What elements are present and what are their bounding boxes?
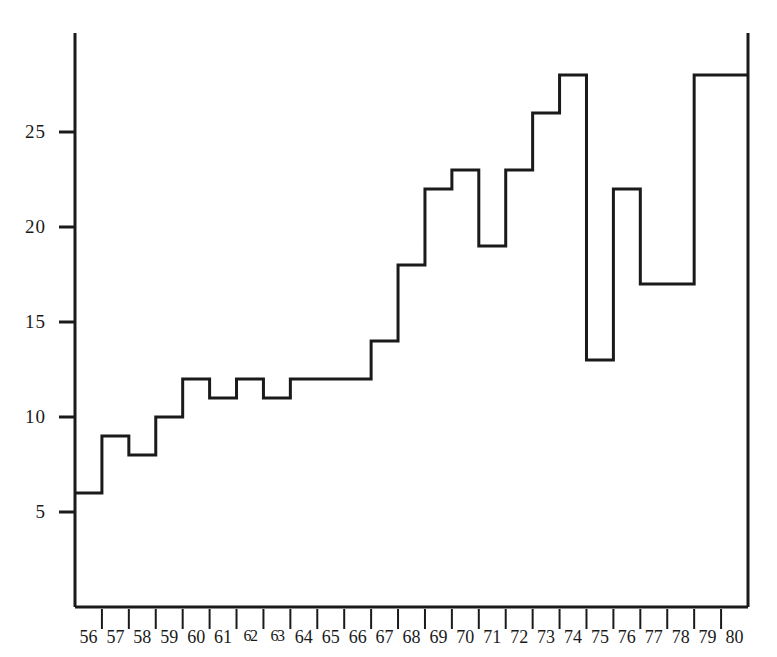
y-tick-group bbox=[59, 132, 75, 512]
x-tick-label-80: 80 bbox=[713, 627, 757, 648]
step-outline-series bbox=[75, 75, 748, 493]
y-tick-label-20: 20 bbox=[0, 216, 46, 238]
y-tick-label-25: 25 bbox=[0, 121, 46, 143]
step-histogram-plot bbox=[0, 0, 777, 657]
chart-container: 510152025 565758596061626364656667686970… bbox=[0, 0, 777, 657]
y-tick-label-10: 10 bbox=[0, 406, 46, 428]
y-tick-label-15: 15 bbox=[0, 311, 46, 333]
y-tick-label-5: 5 bbox=[0, 501, 46, 523]
x-tick-group bbox=[102, 609, 721, 629]
axis-group bbox=[75, 33, 748, 607]
